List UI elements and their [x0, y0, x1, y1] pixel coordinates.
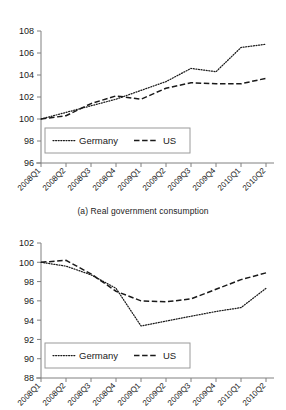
x-tick-label: 2010Q2: [241, 381, 268, 408]
legend-label-us: US: [163, 350, 176, 361]
y-tick-label: 106: [19, 48, 34, 58]
x-tick-label: 2009Q2: [141, 166, 168, 193]
y-tick-label: 104: [19, 70, 34, 80]
y-tick-label: 90: [24, 354, 34, 364]
series-line-germany: [41, 262, 266, 326]
x-tick-label: 2010Q1: [216, 166, 243, 193]
y-tick-label: 108: [19, 26, 34, 36]
y-tick-label: 98: [24, 277, 34, 287]
y-tick-label: 88: [24, 373, 34, 383]
x-tick-label: 2008Q4: [91, 381, 118, 408]
x-tick-label: 2010Q1: [216, 381, 243, 408]
x-tick-label: 2008Q2: [41, 166, 68, 193]
x-tick-label: 2009Q1: [116, 381, 143, 408]
y-tick-label: 98: [24, 136, 34, 146]
line-chart-b: 8890929496981001022008Q12008Q22008Q32008…: [0, 205, 286, 410]
series-line-us: [41, 78, 266, 119]
x-tick-label: 2008Q2: [41, 381, 68, 408]
y-tick-label: 92: [24, 335, 34, 345]
chart-panel-a: 96981001021041061082008Q12008Q22008Q3200…: [0, 0, 286, 205]
x-tick-label: 2009Q2: [141, 381, 168, 408]
chart-panel-b: 8890929496981001022008Q12008Q22008Q32008…: [0, 205, 286, 410]
x-tick-label: 2010Q2: [241, 166, 268, 193]
series-line-germany: [41, 44, 266, 119]
y-tick-label: 94: [24, 316, 34, 326]
x-tick-label: 2008Q1: [16, 166, 43, 193]
x-tick-label: 2008Q1: [16, 381, 43, 408]
figure-container: 96981001021041061082008Q12008Q22008Q3200…: [0, 0, 286, 410]
plot-area-a: 96981001021041061082008Q12008Q22008Q3200…: [0, 0, 286, 205]
x-tick-label: 2009Q1: [116, 166, 143, 193]
y-tick-label: 100: [19, 258, 34, 268]
x-tick-label: 2009Q4: [191, 381, 218, 408]
y-tick-label: 100: [19, 114, 34, 124]
x-tick-label: 2009Q4: [191, 166, 218, 193]
x-tick-label: 2008Q4: [91, 166, 118, 193]
legend-label-us: US: [163, 135, 176, 146]
legend-label-germany: Germany: [79, 350, 118, 361]
series-line-us: [41, 260, 266, 301]
legend-label-germany: Germany: [79, 135, 118, 146]
x-tick-label: 2008Q3: [66, 381, 93, 408]
y-tick-label: 102: [19, 92, 34, 102]
plot-area-b: 8890929496981001022008Q12008Q22008Q32008…: [0, 205, 286, 410]
y-tick-label: 102: [19, 238, 34, 248]
x-tick-label: 2009Q3: [166, 166, 193, 193]
y-tick-label: 96: [24, 158, 34, 168]
y-tick-label: 96: [24, 296, 34, 306]
line-chart-a: 96981001021041061082008Q12008Q22008Q3200…: [0, 0, 286, 205]
x-tick-label: 2009Q3: [166, 381, 193, 408]
x-tick-label: 2008Q3: [66, 166, 93, 193]
